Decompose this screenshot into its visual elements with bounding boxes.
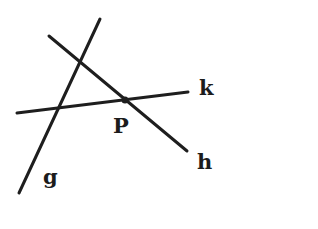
label-k: k [199,77,214,98]
line-k [17,92,188,113]
diagram-canvas [0,0,318,229]
label-g: g [43,166,58,187]
point-p [122,97,129,104]
label-h: h [197,151,212,172]
label-p: P [113,115,129,136]
